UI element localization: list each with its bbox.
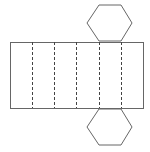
bottom-hexagon-face [87, 109, 132, 145]
top-hexagon-face [87, 5, 132, 41]
hexagonal-prism-net [0, 0, 150, 152]
fold-lines [33, 42, 122, 108]
